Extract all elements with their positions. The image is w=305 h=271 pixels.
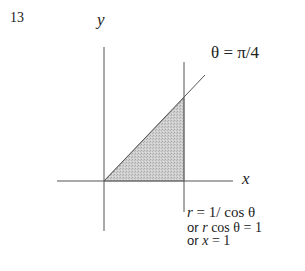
eq1-rest: = 1/ cos θ [193, 204, 255, 220]
equation-line-1: r = 1/ cos θ [187, 206, 255, 219]
equation-line-3: or x = 1 [187, 234, 230, 247]
polar-region-diagram: 13 y θ = π/4 x r = 1/ cos θ or r cos θ =… [0, 0, 305, 271]
eq3-prefix: or [187, 233, 202, 248]
ray-label: θ = π/4 [211, 43, 259, 63]
eq3-rest: = 1 [208, 233, 230, 248]
figure-number: 13 [10, 10, 24, 26]
y-axis-label: y [97, 10, 105, 30]
x-axis-label: x [242, 169, 250, 189]
